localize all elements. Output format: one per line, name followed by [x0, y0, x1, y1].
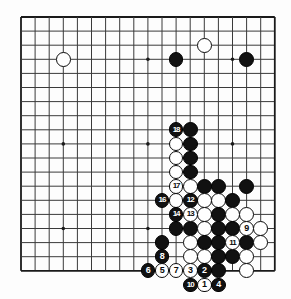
stone-white [253, 221, 268, 236]
stone-black [183, 137, 198, 152]
stone-white [197, 38, 212, 53]
stone-black [183, 151, 198, 166]
star-point [146, 142, 150, 146]
stone-white [197, 249, 212, 264]
stone-black [211, 263, 226, 278]
stone-white [253, 235, 268, 250]
stone-black [225, 221, 240, 236]
stone-black-move-16: 16 [155, 193, 170, 208]
move-number-label: 14 [173, 210, 180, 218]
move-number-label: 3 [188, 266, 193, 275]
stone-black [169, 52, 184, 67]
stone-white [225, 207, 240, 222]
stone-black [225, 249, 240, 264]
stone-white-move-11: 11 [225, 235, 240, 250]
move-number-label: 11 [229, 238, 235, 246]
stone-black [239, 179, 254, 194]
stone-black [211, 235, 226, 250]
stone-black [211, 249, 226, 264]
stone-white [211, 193, 226, 208]
move-number-label: 13 [187, 210, 194, 218]
stone-white [169, 193, 184, 208]
stone-black-move-10: 10 [183, 278, 198, 293]
stone-white-move-13: 13 [183, 207, 198, 222]
stone-black [183, 122, 198, 137]
move-number-label: 18 [173, 125, 180, 133]
move-number-label: 1 [202, 280, 207, 289]
stone-black [225, 193, 240, 208]
stone-black-move-12: 12 [183, 193, 198, 208]
stone-black-move-4: 4 [211, 278, 226, 293]
move-number-label: 10 [187, 281, 194, 289]
move-number-label: 6 [146, 266, 151, 275]
move-number-label: 16 [159, 196, 166, 204]
stone-black [211, 207, 226, 222]
move-number-label: 2 [202, 266, 207, 275]
stone-white-move-1: 1 [197, 278, 212, 293]
move-number-label: 17 [173, 182, 180, 190]
stone-white [183, 235, 198, 250]
stone-white [197, 207, 212, 222]
star-point [62, 142, 66, 146]
stone-white-move-3: 3 [183, 263, 198, 278]
star-point [146, 58, 150, 62]
stone-white-move-17: 17 [169, 179, 184, 194]
stone-black [197, 235, 212, 250]
move-number-label: 5 [160, 266, 165, 275]
star-point [231, 142, 235, 146]
stone-black [239, 52, 254, 67]
stone-white [239, 249, 254, 264]
stone-white [197, 221, 212, 236]
stone-white-move-9: 9 [239, 221, 254, 236]
stone-white [239, 207, 254, 222]
move-number-label: 7 [174, 266, 179, 275]
stone-black-move-14: 14 [169, 207, 184, 222]
stone-black [211, 179, 226, 194]
stone-white [183, 179, 198, 194]
stone-black [183, 165, 198, 180]
stone-white [56, 52, 71, 67]
move-number-label: 12 [187, 196, 194, 204]
stone-black [183, 221, 198, 236]
stone-black-move-2: 2 [197, 263, 212, 278]
move-number-label: 8 [160, 252, 165, 261]
star-point [146, 227, 150, 231]
stone-black [197, 179, 212, 194]
stone-white [197, 193, 212, 208]
star-point [62, 227, 66, 231]
move-number-label: 4 [216, 280, 221, 289]
star-point [231, 58, 235, 62]
stone-black [239, 235, 254, 250]
stone-black [211, 221, 226, 236]
stone-white [183, 249, 198, 264]
move-number-label: 9 [244, 224, 249, 233]
go-board-diagram: 1817161214139118657321014 [0, 0, 291, 299]
